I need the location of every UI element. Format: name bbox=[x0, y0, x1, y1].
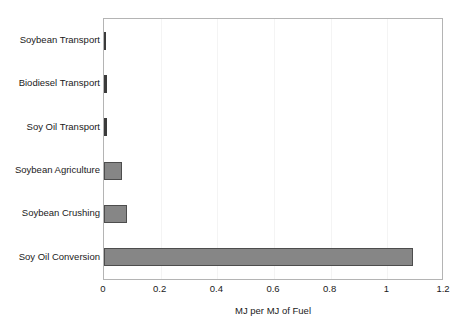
x-axis-title: MJ per MJ of Fuel bbox=[103, 305, 443, 317]
bar-row bbox=[104, 236, 442, 279]
bar-chart: Soybean Transport Biodiesel Transport So… bbox=[0, 0, 464, 328]
category-label-soybean-crushing: Soybean Crushing bbox=[0, 207, 100, 218]
bar-soy-oil-transport bbox=[104, 118, 107, 136]
x-tick-0: 0 bbox=[100, 283, 105, 295]
category-label-soybean-transport: Soybean Transport bbox=[0, 34, 100, 45]
bar-biodiesel-transport bbox=[104, 75, 107, 93]
bar-row bbox=[104, 19, 442, 62]
bar-row bbox=[104, 192, 442, 235]
x-tick-2: 0.4 bbox=[210, 283, 223, 295]
bar-soy-oil-conversion bbox=[104, 248, 413, 266]
category-label-soybean-agriculture: Soybean Agriculture bbox=[0, 164, 100, 175]
x-tick-5: 1 bbox=[384, 283, 389, 295]
category-label-biodiesel-transport: Biodiesel Transport bbox=[0, 77, 100, 88]
x-tick-4: 0.8 bbox=[323, 283, 336, 295]
category-axis-labels: Soybean Transport Biodiesel Transport So… bbox=[0, 18, 100, 280]
bar-row bbox=[104, 62, 442, 105]
category-label-soy-oil-conversion: Soy Oil Conversion bbox=[0, 251, 100, 262]
bar-soybean-transport bbox=[104, 32, 106, 50]
category-label-soy-oil-transport: Soy Oil Transport bbox=[0, 121, 100, 132]
bar-soybean-agriculture bbox=[104, 162, 122, 180]
bar-row bbox=[104, 106, 442, 149]
x-tick-1: 0.2 bbox=[153, 283, 166, 295]
x-tick-3: 0.6 bbox=[266, 283, 279, 295]
x-axis-tick-labels: 0 0.2 0.4 0.6 0.8 1 1.2 bbox=[103, 283, 443, 297]
plot-area bbox=[103, 18, 443, 280]
bar-soybean-crushing bbox=[104, 205, 127, 223]
bar-row bbox=[104, 149, 442, 192]
x-tick-6: 1.2 bbox=[436, 283, 449, 295]
